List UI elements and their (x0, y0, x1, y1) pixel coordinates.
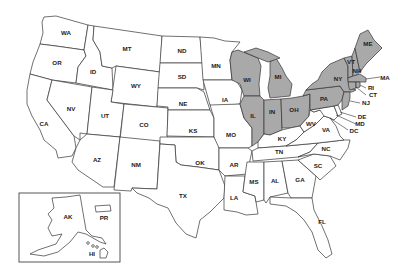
label-fl: FL (318, 218, 326, 225)
label-nm: NM (131, 161, 141, 168)
label-ms: MS (249, 178, 258, 185)
label-pa: PA (320, 95, 329, 102)
label-dc: DC (350, 127, 359, 134)
us-map: WA OR CA ID NV MT WY UT CO AZ NM ND SD N… (0, 0, 404, 274)
state-nj[interactable] (342, 92, 350, 110)
label-nh: NH (353, 67, 362, 74)
label-mt: MT (123, 45, 132, 52)
hi-island-1 (87, 242, 90, 245)
label-ia: IA (222, 96, 229, 103)
label-sc: SC (314, 162, 323, 169)
label-oh: OH (289, 106, 299, 113)
label-ak: AK (64, 213, 73, 220)
label-ok: OK (195, 159, 205, 166)
label-id: ID (90, 68, 97, 75)
label-ut: UT (101, 112, 109, 119)
label-md: MD (355, 120, 365, 127)
label-or: OR (52, 59, 62, 66)
leader-ma (366, 77, 380, 79)
hi-island-2 (92, 245, 95, 248)
label-pr: PR (100, 214, 109, 221)
label-hi: HI (89, 250, 95, 257)
leader-ri (360, 85, 366, 88)
label-la: LA (230, 194, 239, 201)
label-mo: MO (226, 131, 236, 138)
label-tx: TX (179, 192, 188, 199)
state-ct[interactable] (348, 82, 356, 90)
label-mi: MI (275, 73, 282, 80)
label-al: AL (271, 177, 279, 184)
state-hi[interactable] (100, 248, 108, 258)
label-me: ME (363, 40, 372, 47)
label-nc: NC (322, 145, 331, 152)
label-wa: WA (61, 29, 71, 36)
label-wi: WI (243, 76, 251, 83)
label-ks: KS (189, 127, 198, 134)
label-nd: ND (178, 47, 187, 54)
label-ne: NE (179, 100, 188, 107)
state-pr[interactable] (95, 205, 111, 212)
label-wv: WV (306, 120, 317, 127)
label-co: CO (139, 121, 148, 128)
leader-de (340, 112, 356, 117)
leader-nj (350, 101, 360, 103)
label-va: VA (322, 126, 331, 133)
label-ny: NY (334, 75, 343, 82)
state-fl[interactable] (270, 197, 332, 258)
hi-island-3 (96, 246, 99, 249)
label-mn: MN (211, 62, 221, 69)
label-ca: CA (40, 120, 49, 127)
label-ct: CT (369, 91, 377, 98)
label-ky: KY (278, 135, 287, 142)
label-wy: WY (131, 82, 142, 89)
label-de: DE (358, 113, 367, 120)
label-in: IN (269, 108, 276, 115)
leader-ct (356, 87, 366, 95)
label-sd: SD (178, 73, 187, 80)
label-tn: TN (275, 148, 284, 155)
label-vt: VT (347, 58, 355, 65)
label-ri: RI (368, 84, 374, 91)
label-ma: MA (380, 74, 390, 81)
label-ga: GA (295, 176, 305, 183)
state-ak[interactable] (30, 195, 106, 256)
state-ia[interactable] (203, 80, 242, 107)
label-nv: NV (67, 105, 76, 112)
label-nj: NJ (362, 99, 370, 106)
label-ar: AR (230, 161, 239, 168)
label-az: AZ (93, 156, 101, 163)
label-il: IL (250, 112, 256, 119)
state-in[interactable] (264, 99, 282, 135)
